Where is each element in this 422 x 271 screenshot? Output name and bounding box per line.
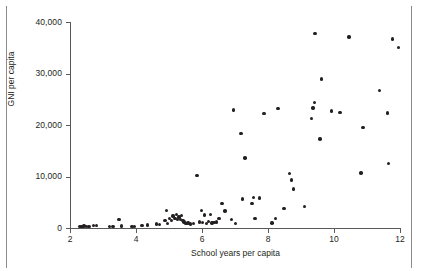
x-tick-mark: [334, 229, 335, 233]
data-point: [140, 224, 143, 227]
x-tick-mark: [400, 229, 401, 233]
x-tick-mark: [70, 229, 71, 233]
data-point: [223, 209, 226, 212]
data-point: [274, 217, 277, 220]
x-tick-label: 10: [322, 235, 346, 244]
data-point: [250, 202, 253, 205]
data-point: [361, 126, 364, 129]
x-tick-label: 8: [256, 235, 280, 244]
data-point: [120, 224, 123, 227]
data-point: [270, 221, 273, 224]
data-point: [258, 196, 261, 199]
data-point: [338, 111, 341, 114]
x-tick-label: 4: [124, 235, 148, 244]
data-point: [318, 137, 321, 140]
x-tick-mark: [268, 229, 269, 233]
data-point: [243, 156, 246, 159]
data-point: [111, 225, 114, 228]
data-point: [195, 174, 198, 177]
data-point: [313, 101, 316, 104]
data-point: [253, 217, 256, 220]
data-point: [282, 207, 285, 210]
data-point: [303, 205, 306, 208]
x-tick-label: 6: [190, 235, 214, 244]
data-point: [241, 197, 244, 200]
y-axis-label: GNI per capita: [6, 39, 16, 119]
data-point: [347, 35, 350, 38]
x-tick-label: 12: [388, 235, 412, 244]
x-tick-mark: [202, 229, 203, 233]
x-tick-label: 2: [58, 235, 82, 244]
x-tick-mark: [136, 229, 137, 233]
plot-area: [70, 22, 400, 228]
data-point: [87, 225, 90, 228]
x-axis-label: School years per capita: [70, 248, 401, 258]
data-point: [386, 111, 389, 114]
data-point: [215, 220, 218, 223]
data-point: [117, 218, 120, 221]
x-axis-line: [70, 228, 401, 229]
data-point: [217, 217, 220, 220]
data-point: [146, 223, 149, 226]
scatter-chart-figure: 010,00020,00030,00040,000 24681012 Schoo…: [0, 0, 422, 271]
y-tick-label: 10,000: [0, 172, 62, 181]
y-tick-label: 0: [0, 224, 62, 233]
data-point: [320, 77, 323, 80]
y-tick-label: 40,000: [0, 18, 62, 27]
data-point: [359, 171, 362, 174]
page-rule-right: [411, 6, 412, 268]
data-point: [313, 32, 316, 35]
data-point: [276, 107, 279, 110]
data-point: [397, 46, 400, 49]
data-point: [330, 109, 333, 112]
data-point: [311, 106, 314, 109]
y-tick-label: 20,000: [0, 121, 62, 130]
